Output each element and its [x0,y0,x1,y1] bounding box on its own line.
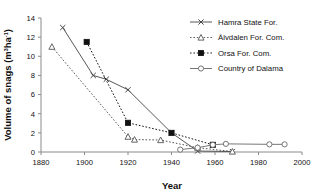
y-axis-title-tail: ) [2,29,13,32]
y-tick-label: 12 [27,33,35,42]
legend-label: Orsa For. Com. [218,49,271,58]
x-axis-title: Year [162,180,182,191]
legend-label: Country of Dalama [218,64,284,73]
data-point-marker [195,145,200,150]
legend-label: Hamra State For. [218,18,277,27]
y-tick-label: 10 [27,52,35,61]
legend-marker-sample [198,66,203,71]
x-tick-label: 1960 [207,158,224,167]
y-axis-title-mid: ha [2,36,13,48]
legend-marker-sample [198,50,203,55]
x-tick-label: 1880 [33,158,50,167]
chart-figure: 02468101214 1880190019201940196019802000… [0,0,320,196]
data-point-marker [84,39,89,44]
data-point-marker [210,142,215,147]
svg-text:Volume of snags (m3ha-1): Volume of snags (m3ha-1) [2,29,13,141]
x-tick-label: 1920 [120,158,137,167]
x-tick-label: 1940 [163,158,180,167]
y-axis-title-main: Volume of snags (m [2,51,13,141]
y-tick-label: 4 [31,110,35,119]
y-axis-title: Volume of snags (m3ha-1) [2,29,13,141]
y-tick-label: 6 [31,90,35,99]
data-point-marker [125,120,130,125]
data-point-marker [267,142,272,147]
legend-label: Älvdalen For. Com. [218,33,284,42]
y-tick-label: 2 [31,129,35,138]
y-tick-label: 8 [31,71,35,80]
x-tick-label: 1900 [76,158,93,167]
y-tick-label: 14 [27,14,35,23]
data-point-marker [282,142,287,147]
data-point-marker [223,141,228,146]
x-tick-label: 1980 [250,158,267,167]
y-tick-label: 0 [31,148,35,157]
data-point-marker [178,147,183,152]
data-point-marker [169,130,174,135]
x-tick-label: 2000 [294,158,311,167]
snag-volume-line-chart: 02468101214 1880190019201940196019802000… [0,0,320,196]
